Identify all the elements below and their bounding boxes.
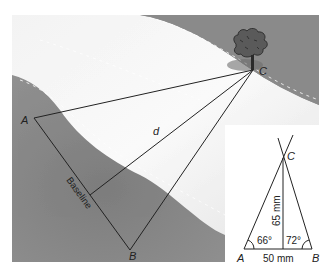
point-C-label: C <box>259 65 267 77</box>
inset-point-C-label: C <box>287 150 295 162</box>
triangulation-figure: A B C d Baseline A B C 66° 72° 50 mm 65 … <box>0 0 331 272</box>
base-length-label: 50 mm <box>263 253 294 264</box>
inset-point-B-label: B <box>312 252 319 264</box>
inset-point-A-label: A <box>236 252 244 264</box>
point-B-label: B <box>129 250 136 262</box>
point-A-label: A <box>20 114 28 126</box>
tree-shadow <box>227 59 263 71</box>
distance-d-label: d <box>153 125 160 137</box>
inset-diagram: A B C 66° 72° 50 mm 65 mm <box>226 126 331 272</box>
angle-B-value: 72° <box>286 235 301 246</box>
angle-A-value: 66° <box>257 235 272 246</box>
height-length-label: 65 mm <box>271 195 282 226</box>
